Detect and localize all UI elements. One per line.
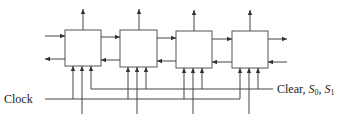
clear-label: Clear, <box>277 82 309 96</box>
clock-label: Clock <box>4 92 33 106</box>
cell-4-box <box>232 31 268 68</box>
shift-register-diagram: Clock Clear, S0, S1 <box>0 0 355 120</box>
control-label: Clear, S0, S1 <box>277 82 335 97</box>
cell-3-box <box>176 31 212 68</box>
s1-subscript: 1 <box>331 88 335 97</box>
output-arrows <box>83 9 250 31</box>
cell-1-box <box>65 30 101 66</box>
clock-bus <box>45 66 240 99</box>
cell-2-box <box>120 30 157 67</box>
parallel-inputs <box>82 66 249 114</box>
control-bus <box>91 66 273 89</box>
cells <box>65 30 268 68</box>
